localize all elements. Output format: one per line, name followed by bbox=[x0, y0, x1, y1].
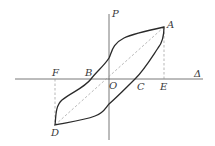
point-label-b: B bbox=[84, 67, 92, 78]
dashed-diagonal-DA bbox=[55, 27, 164, 125]
axis-label-delta: Δ bbox=[193, 68, 201, 79]
point-label-e: E bbox=[159, 81, 168, 92]
axis-label-p: P bbox=[111, 8, 119, 19]
point-label-a: A bbox=[166, 19, 174, 30]
point-label-f: F bbox=[51, 67, 60, 78]
origin-label-o: O bbox=[109, 80, 117, 91]
point-label-c: C bbox=[137, 81, 145, 92]
point-label-d: D bbox=[50, 127, 59, 138]
hysteresis-diagram: P Δ A B C D E F O bbox=[0, 0, 215, 146]
